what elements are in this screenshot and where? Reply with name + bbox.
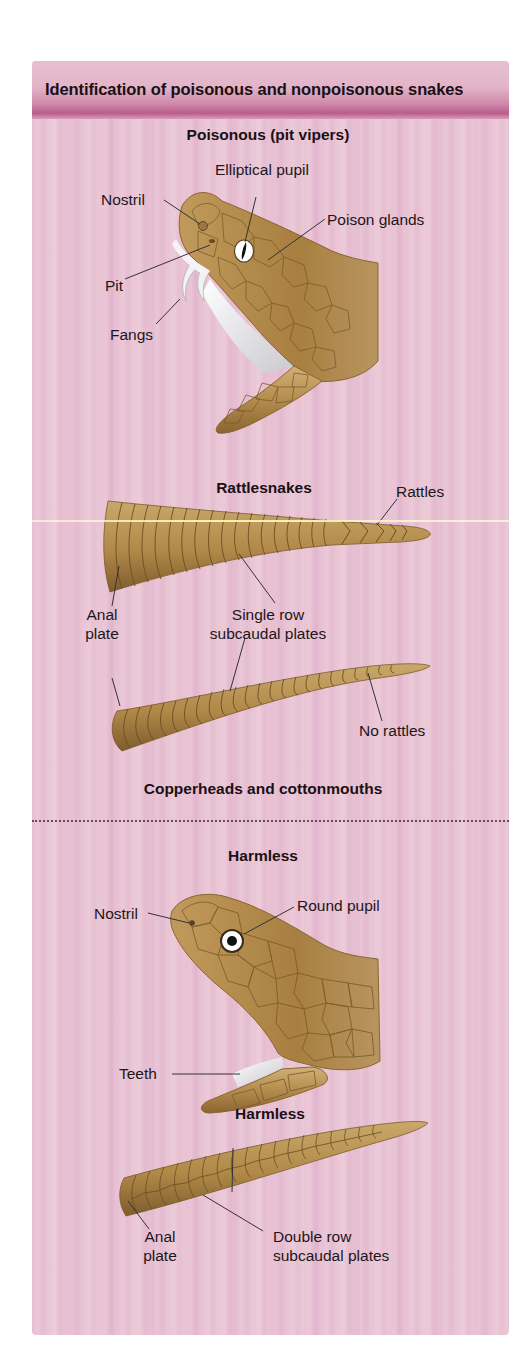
label-single-row-subcaudal: Single row subcaudal plates: [183, 605, 353, 643]
label-anal-plate-harmless: Anal plate: [138, 1227, 182, 1265]
label-elliptical-pupil: Elliptical pupil: [215, 160, 309, 179]
section-title-copperheads: Copperheads and cottonmouths: [144, 780, 383, 798]
label-anal-plate-rattlesnake: Anal plate: [82, 605, 122, 643]
label-poison-glands: Poison glands: [327, 210, 424, 229]
section-title-rattlesnakes: Rattlesnakes: [216, 479, 312, 497]
label-double-row-line1: Double row: [273, 1227, 389, 1246]
label-anal-plate-harmless-line1: Anal: [138, 1227, 182, 1246]
snake-identification-panel: Identification of poisonous and nonpoiso…: [32, 61, 509, 1335]
label-anal-plate-line2: plate: [82, 624, 122, 643]
label-nostril-harmless: Nostril: [94, 904, 138, 923]
label-fangs: Fangs: [110, 325, 153, 344]
section-title-harmless-tail: Harmless: [235, 1105, 305, 1123]
label-anal-plate-line1: Anal: [82, 605, 122, 624]
label-pit: Pit: [105, 276, 123, 295]
label-double-row-subcaudal: Double row subcaudal plates: [273, 1227, 389, 1265]
scan-glare-line: [32, 520, 509, 522]
label-single-row-line2: subcaudal plates: [183, 624, 353, 643]
snake-illustrations: [32, 61, 509, 1335]
label-round-pupil: Round pupil: [297, 896, 380, 915]
rattlesnake-tail-illustration: [104, 499, 431, 606]
label-anal-plate-harmless-line2: plate: [138, 1246, 182, 1265]
harmless-head-illustration: [148, 894, 380, 1113]
section-title-poisonous: Poisonous (pit vipers): [187, 126, 350, 144]
dotted-divider: [32, 820, 509, 822]
harmless-tail-illustration: [120, 1122, 428, 1232]
label-double-row-line2: subcaudal plates: [273, 1246, 389, 1265]
label-no-rattles: No rattles: [359, 721, 425, 740]
label-single-row-line1: Single row: [183, 605, 353, 624]
label-rattles: Rattles: [396, 482, 444, 501]
section-title-harmless-head: Harmless: [228, 847, 298, 865]
label-nostril-poisonous: Nostril: [101, 190, 145, 209]
label-teeth: Teeth: [119, 1064, 157, 1083]
